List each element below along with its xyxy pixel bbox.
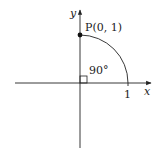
diagram-canvas: y x P(0, 1) 90° 1 [0,0,163,160]
point-p-label: P(0, 1) [85,21,122,34]
angle-label: 90° [89,64,109,77]
x-axis-label: x [144,85,151,98]
tick-label-one: 1 [124,88,131,101]
y-axis-label: y [69,7,77,20]
right-angle-marker [80,76,87,83]
point-p [78,33,83,38]
